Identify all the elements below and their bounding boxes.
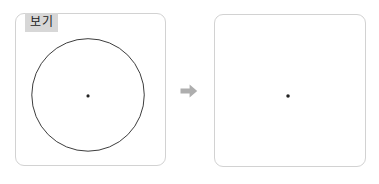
right-arrow-glyph <box>180 83 198 99</box>
right-panel <box>214 14 366 167</box>
right-panel-shapes <box>215 15 365 166</box>
right-arrow-icon <box>180 83 198 99</box>
left-panel-shapes <box>16 14 165 165</box>
geometry-figure: 보기 <box>0 0 379 184</box>
left-panel: 보기 <box>15 13 166 166</box>
center-point-dot <box>286 94 290 98</box>
center-point-dot <box>86 94 89 97</box>
panel-label-badge: 보기 <box>25 13 58 32</box>
